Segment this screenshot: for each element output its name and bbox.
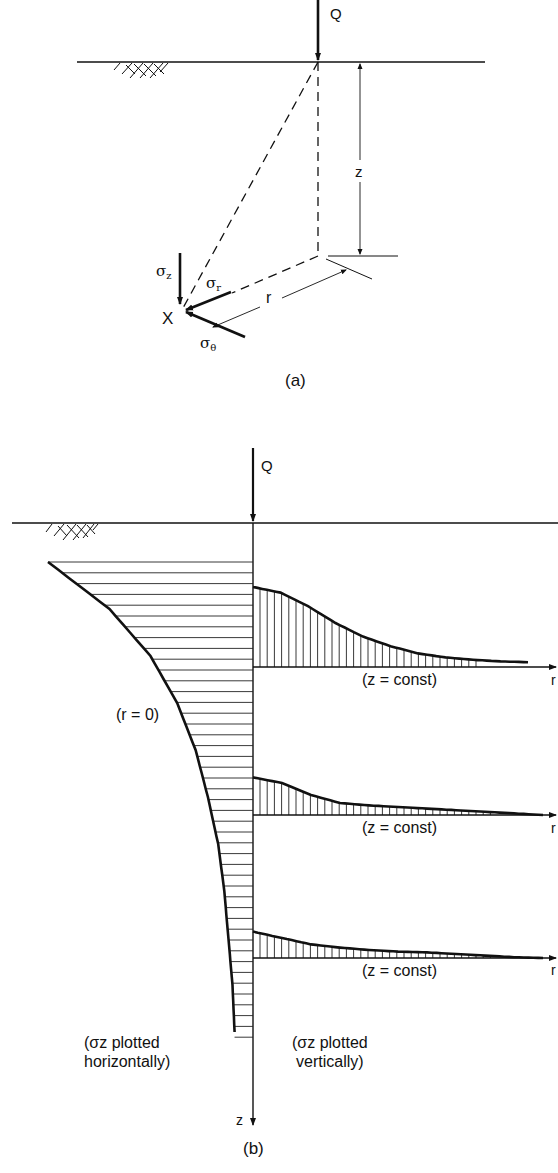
r-dimension-left [213, 307, 260, 327]
caption-b: (b) [243, 1140, 264, 1157]
figure-a [77, 0, 485, 337]
r-axis-label-3: r [551, 963, 556, 977]
left-curve-label: (r = 0) [116, 707, 159, 723]
stress-curve-z2 [253, 777, 543, 815]
right-curve-label-3: (z = const) [362, 963, 437, 979]
sigma-r-label: σr [206, 276, 221, 293]
dashed-radial-a [183, 62, 318, 308]
stress-curve-z1 [253, 587, 528, 662]
left-curve-hatching [48, 562, 253, 1037]
right-note-line1: (σz plotted [292, 1033, 368, 1052]
right-curve-label-2: (z = const) [362, 820, 437, 836]
right-note: (σz plotted vertically) [292, 1033, 368, 1071]
r-axis-label-1: r [551, 673, 556, 687]
right-curve-label-1: (z = const) [362, 672, 437, 688]
stress-curve-z3 [253, 932, 543, 958]
r-dimension-right [282, 270, 346, 298]
left-note-line1: (σz plotted [84, 1033, 170, 1052]
r-axis-label-2: r [551, 821, 556, 835]
figure-b [12, 448, 558, 1125]
point-label-x: X [162, 310, 173, 327]
left-note: (σz plotted horizontally) [84, 1033, 170, 1071]
stress-curve-r0 [48, 562, 235, 1032]
soil-hatch-icon-a [114, 63, 168, 78]
sigma-r-arrow [186, 292, 231, 310]
caption-a: (a) [285, 372, 306, 389]
radius-label-r: r [266, 290, 271, 306]
right-curve-1-hatching [260, 588, 476, 667]
diagram-canvas [0, 0, 558, 1173]
z-axis-label: z [236, 1113, 243, 1127]
sigma-theta-label: σθ [200, 336, 216, 353]
sigma-theta-line [186, 312, 245, 337]
right-note-line2: vertically) [292, 1052, 368, 1071]
depth-label-z: z [355, 164, 363, 179]
sigma-z-label: σz [156, 264, 172, 281]
load-label-a: Q [330, 6, 342, 21]
soil-hatch-icon-b [46, 524, 98, 540]
left-note-line2: horizontally) [84, 1052, 170, 1071]
load-label-b: Q [261, 458, 273, 473]
